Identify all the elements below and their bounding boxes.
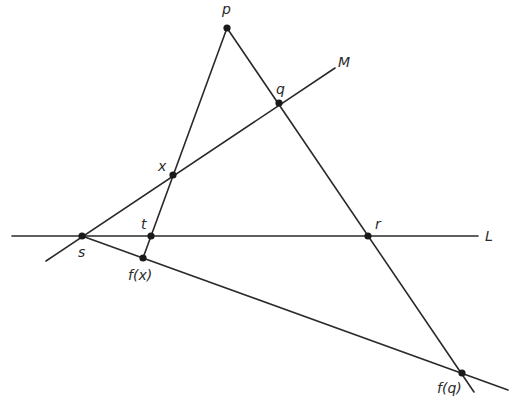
line-M — [46, 68, 335, 261]
line-label-M: M — [338, 54, 350, 70]
point-s — [78, 232, 85, 239]
diagram-canvas: LMpqxtsrf(x)f(q) — [0, 0, 523, 414]
point-label-x: x — [157, 158, 167, 174]
point-label-fx: f(x) — [128, 267, 152, 283]
line-p-fx — [143, 28, 227, 258]
point-fx — [139, 254, 146, 261]
point-r — [364, 232, 371, 239]
point-label-fq: f(q) — [437, 380, 462, 396]
geometry-diagram: LMpqxtsrf(x)f(q) — [0, 0, 523, 414]
point-fq — [458, 369, 465, 376]
point-x — [169, 171, 176, 178]
point-t — [147, 232, 154, 239]
line-p-fq — [227, 28, 474, 392]
point-label-t: t — [141, 216, 147, 232]
point-label-q: q — [276, 81, 285, 97]
point-label-p: p — [221, 1, 231, 17]
point-q — [275, 99, 282, 106]
point-label-r: r — [375, 216, 382, 232]
point-p — [223, 24, 230, 31]
point-label-s: s — [78, 244, 85, 260]
line-label-L: L — [485, 228, 493, 244]
